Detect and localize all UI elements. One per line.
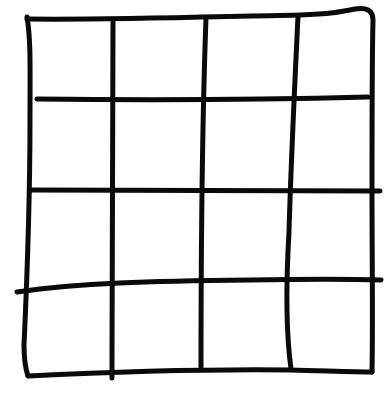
vertical-line-2 <box>201 18 206 369</box>
vertical-line-1 <box>112 22 113 378</box>
grid-outline-left <box>24 17 30 376</box>
horizontal-line-2 <box>30 190 380 191</box>
hand-drawn-grid <box>0 0 391 402</box>
grid-lines <box>17 8 381 378</box>
